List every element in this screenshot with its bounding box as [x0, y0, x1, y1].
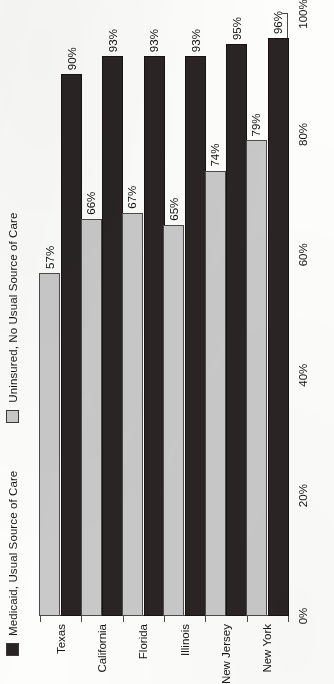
bar-value-label: 79% [250, 113, 262, 136]
category-label: New York [261, 624, 273, 673]
value-axis-tick-label: 20% [297, 484, 309, 507]
value-axis-tick-label: 80% [297, 123, 309, 146]
bar-medicaid: 93% [102, 56, 123, 616]
bar-group: Illinois65%93% [164, 14, 205, 616]
legend-swatch-icon-uninsured [6, 410, 19, 423]
bar-group: Texas57%90% [40, 14, 81, 616]
category-axis-tick [247, 616, 248, 622]
category-axis-tick [40, 616, 41, 622]
bar-uninsured: 74% [205, 171, 226, 616]
value-axis-tick-label: 0% [297, 608, 309, 625]
legend-label-uninsured: Uninsured, No Usual Source of Care [7, 213, 19, 403]
bar-value-label: 90% [66, 47, 78, 70]
bar-uninsured: 57% [39, 273, 60, 616]
bar-value-label: 57% [44, 246, 56, 269]
chart-legend: Medicaid, Usual Source of Care Uninsured… [6, 213, 19, 656]
bar-uninsured: 65% [163, 225, 184, 616]
legend-swatch-icon-medicaid [6, 643, 19, 656]
bar-group: Florida67%93% [123, 14, 164, 616]
category-axis-tick [205, 616, 206, 622]
bar-group: California66%93% [81, 14, 122, 616]
value-axis-tick-label: 60% [297, 243, 309, 266]
rotated-figure: Medicaid, Usual Source of Care Uninsured… [0, 0, 334, 684]
bar-value-label: 66% [85, 192, 97, 215]
bar-medicaid: 93% [185, 56, 206, 616]
bar-value-label: 67% [126, 186, 138, 209]
legend-label-medicaid: Medicaid, Usual Source of Care [7, 471, 19, 636]
category-label: Texas [55, 624, 67, 654]
bar-value-label: 74% [209, 144, 221, 167]
bar-medicaid: 96% [268, 38, 289, 616]
chart-figure: Medicaid, Usual Source of Care Uninsured… [0, 0, 334, 684]
bar-medicaid: 95% [226, 44, 247, 616]
scanned-page: Medicaid, Usual Source of Care Uninsured… [0, 0, 334, 684]
bar-value-label: 96% [272, 11, 284, 34]
category-axis-tick [164, 616, 165, 622]
category-axis-tick [288, 616, 289, 622]
category-label: Florida [137, 624, 149, 659]
bar-medicaid: 90% [61, 74, 82, 616]
bar-group: New Jersey74%95% [205, 14, 246, 616]
bar-value-label: 93% [190, 29, 202, 52]
value-axis-tick-label: 40% [297, 364, 309, 387]
category-label: California [96, 624, 108, 673]
legend-item-uninsured: Uninsured, No Usual Source of Care [6, 213, 19, 423]
bar-value-label: 65% [168, 198, 180, 221]
category-axis-tick [123, 616, 124, 622]
bar-medicaid: 93% [144, 56, 165, 616]
category-label: Illinois [179, 624, 191, 656]
bar-uninsured: 67% [122, 213, 143, 616]
category-axis-tick [81, 616, 82, 622]
plot-area: 0%20%40%60%80%100% Texas57%90%California… [40, 14, 288, 616]
bar-group: New York79%96% [247, 14, 288, 616]
bar-uninsured: 66% [81, 219, 102, 616]
legend-item-medicaid: Medicaid, Usual Source of Care [6, 471, 19, 656]
bar-uninsured: 79% [246, 140, 267, 616]
value-axis-tick-label: 100% [297, 0, 309, 29]
category-label: New Jersey [220, 624, 232, 684]
bar-value-label: 93% [148, 29, 160, 52]
bar-value-label: 95% [231, 17, 243, 40]
bar-value-label: 93% [107, 29, 119, 52]
